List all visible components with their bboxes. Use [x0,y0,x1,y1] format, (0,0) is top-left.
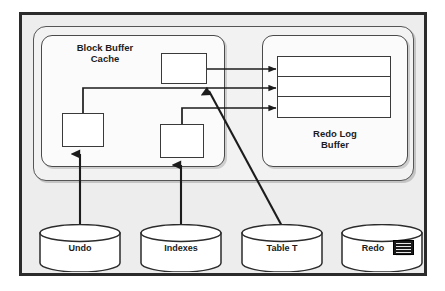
datafile-label: Indexes [140,243,222,253]
datafile-cylinder-indexes[interactable]: Indexes [140,224,222,272]
redo-log-buffer-row-2 [278,77,390,97]
buffer-block-top [161,53,207,84]
datafile-cylinder-undo[interactable]: Undo [39,224,121,272]
datafile-cylinder-redo[interactable]: Redo [341,224,423,272]
sga-diagram: Block Buffer Cache Redo Log Buffer [0,0,445,291]
redo-log-buffer-rows [277,56,391,118]
datafile-cylinder-table-t[interactable]: Table T [241,224,323,272]
redo-log-stripes-icon [393,240,414,255]
block-buffer-cache-label: Block Buffer Cache [50,42,160,64]
redo-log-buffer-label: Redo Log Buffer [285,128,385,150]
datafile-label: Table T [241,243,323,253]
buffer-block-left [62,113,104,147]
datafile-label: Undo [39,243,121,253]
buffer-block-middle [160,124,204,158]
redo-log-buffer-row-3 [278,97,390,117]
redo-log-buffer-row-1 [278,57,390,77]
